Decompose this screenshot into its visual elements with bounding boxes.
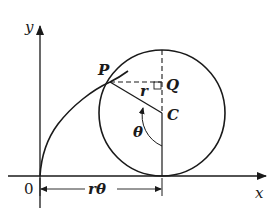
theta-angle-arc xyxy=(142,108,162,146)
right-angle-marker xyxy=(154,82,161,89)
origin-label: 0 xyxy=(24,180,34,198)
diagram-svg: y x 0 P Q C r θ rθ xyxy=(0,0,270,214)
cycloid-curve xyxy=(40,71,128,176)
x-axis-label: x xyxy=(255,184,264,202)
y-axis-label: y xyxy=(24,18,34,36)
theta-label: θ xyxy=(133,123,143,141)
point-c-label: C xyxy=(167,106,179,124)
arc-length-label: rθ xyxy=(88,180,106,198)
point-q-label: Q xyxy=(166,76,179,94)
point-p-label: P xyxy=(97,61,110,79)
cycloid-diagram: y x 0 P Q C r θ rθ xyxy=(0,0,270,214)
radius-label: r xyxy=(140,82,149,100)
